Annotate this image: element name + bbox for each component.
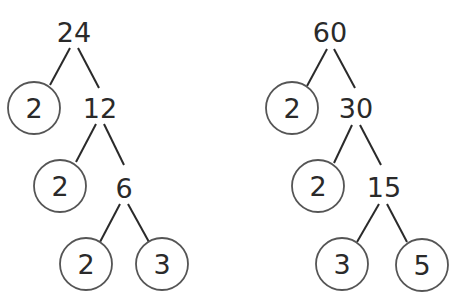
branch-line <box>50 48 70 85</box>
node-3-circled: 3 <box>333 251 350 278</box>
node-15: 15 <box>367 174 401 201</box>
node-2-circled: 2 <box>309 173 326 200</box>
branch-line <box>387 204 407 242</box>
branch-line <box>360 125 381 165</box>
branch-line <box>104 124 124 165</box>
node-12: 12 <box>83 95 117 122</box>
node-2-circled: 2 <box>77 251 94 278</box>
branch-line <box>307 49 327 86</box>
node-2-circled: 2 <box>51 173 68 200</box>
branch-line <box>128 204 149 242</box>
branch-line <box>357 204 379 242</box>
branch-line <box>334 125 352 163</box>
node-30: 30 <box>339 95 373 122</box>
branch-line <box>76 124 96 162</box>
node-60: 60 <box>313 19 347 46</box>
branch-line <box>334 49 355 88</box>
branch-line <box>100 204 120 242</box>
node-2-circled: 2 <box>25 95 42 122</box>
branch-line <box>78 48 99 88</box>
node-6: 6 <box>115 175 132 202</box>
node-3-circled: 3 <box>153 251 170 278</box>
node-2-circled: 2 <box>283 95 300 122</box>
node-5-circled: 5 <box>413 252 430 279</box>
node-24: 24 <box>57 19 91 46</box>
